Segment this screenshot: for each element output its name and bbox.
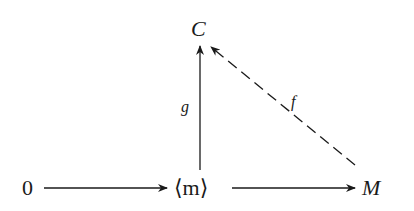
arrow-f-M-to-C-dashed — [211, 47, 355, 165]
node-M: M — [362, 177, 380, 199]
label-g: g — [181, 99, 189, 115]
node-zero: 0 — [22, 177, 33, 199]
label-f: f — [291, 94, 295, 110]
node-C: C — [191, 18, 206, 40]
node-m-generated: ⟨m⟩ — [174, 177, 208, 199]
